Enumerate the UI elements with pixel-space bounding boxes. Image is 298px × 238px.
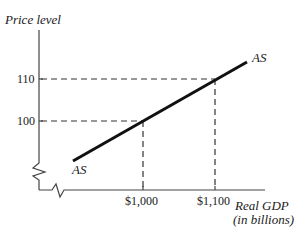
x-axis-label: Real GDP bbox=[234, 198, 289, 213]
y-axis bbox=[33, 30, 45, 190]
as-label-start: AS bbox=[71, 162, 87, 177]
y-tick-label-100: 100 bbox=[17, 114, 35, 128]
x-tick-label-1100: $1,100 bbox=[197, 194, 230, 208]
y-tick-label-110: 110 bbox=[17, 72, 35, 86]
x-tick-label-1000: $1,000 bbox=[125, 194, 158, 208]
cropped-heading-remnant bbox=[0, 0, 298, 6]
x-axis-sublabel: (in billions) bbox=[233, 212, 294, 227]
as-curve bbox=[73, 62, 247, 161]
y-axis-label: Price level bbox=[4, 12, 61, 27]
aggregate-supply-chart: Price level 110 100 $1,000 $1,100 Real G… bbox=[0, 0, 298, 238]
as-label-end: AS bbox=[251, 50, 267, 65]
